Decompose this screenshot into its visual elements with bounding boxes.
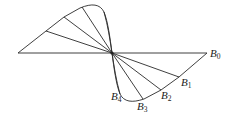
fan-diagram: B0 B1 B2 B3 B4 <box>0 0 232 124</box>
svg-text:B1: B1 <box>181 76 192 90</box>
svg-text:B2: B2 <box>161 89 172 103</box>
label-B3: B3 <box>137 100 148 114</box>
upper-boundary-curve <box>18 5 112 53</box>
svg-text:B4: B4 <box>111 90 122 104</box>
chord-B1 <box>112 53 179 77</box>
center-point <box>110 51 113 54</box>
label-B4: B4 <box>111 90 122 104</box>
upper-chord-1 <box>46 31 112 53</box>
svg-text:B3: B3 <box>137 100 148 114</box>
lower-boundary-curve <box>112 53 207 101</box>
label-B0: B0 <box>210 47 221 61</box>
label-B2: B2 <box>161 89 172 103</box>
label-B1: B1 <box>181 76 192 90</box>
upper-chord-3 <box>82 7 112 53</box>
chord-B2 <box>112 53 161 90</box>
upper-chord-2 <box>64 17 112 53</box>
svg-text:B0: B0 <box>210 47 221 61</box>
